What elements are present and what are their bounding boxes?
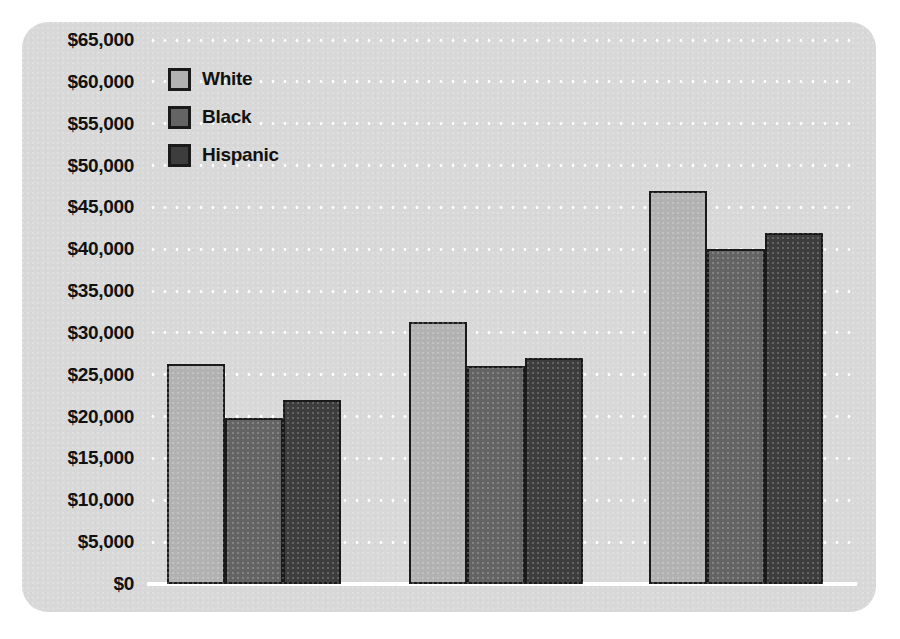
y-axis-tick-label: $0	[113, 573, 134, 595]
bar	[707, 249, 765, 584]
legend-swatch-icon	[168, 68, 191, 91]
bar	[225, 418, 283, 584]
legend-item: White	[168, 60, 279, 98]
bar	[467, 366, 525, 584]
x-axis-category-label: Less than High School	[167, 610, 341, 612]
bar	[167, 364, 225, 584]
legend-label: Hispanic	[202, 144, 279, 166]
chart-panel: $65,000$60,000$55,000$50,000$45,000$40,0…	[22, 22, 876, 612]
legend-item: Black	[168, 98, 279, 136]
y-axis-tick-label: $65,000	[67, 29, 134, 51]
y-axis-tick-label: $35,000	[67, 280, 134, 302]
y-axis-tick-label: $60,000	[67, 71, 134, 93]
legend-item: Hispanic	[168, 136, 279, 174]
bar	[649, 191, 707, 584]
bar	[765, 233, 823, 585]
y-axis-tick-label: $15,000	[67, 447, 134, 469]
y-axis-tick-label: $20,000	[67, 406, 134, 428]
legend-swatch-icon	[168, 106, 191, 129]
legend-swatch-icon	[168, 144, 191, 167]
x-axis-category-label: Bachelor's Degree	[649, 610, 823, 612]
legend-label: White	[202, 68, 252, 90]
y-axis-tick-label: $5,000	[78, 531, 134, 553]
y-axis-tick-label: $25,000	[67, 364, 134, 386]
chart-legend: WhiteBlackHispanic	[168, 60, 279, 174]
bar	[409, 322, 467, 584]
bar	[283, 400, 341, 584]
y-axis: $65,000$60,000$55,000$50,000$45,000$40,0…	[22, 40, 142, 584]
gridline	[147, 39, 857, 42]
bar	[525, 358, 583, 584]
y-axis-tick-label: $45,000	[67, 196, 134, 218]
x-axis-category-label: High School Graduate	[409, 610, 583, 612]
y-axis-tick-label: $55,000	[67, 113, 134, 135]
gridline	[147, 206, 857, 209]
y-axis-tick-label: $40,000	[67, 238, 134, 260]
y-axis-tick-label: $30,000	[67, 322, 134, 344]
y-axis-tick-label: $50,000	[67, 155, 134, 177]
y-axis-tick-label: $10,000	[67, 489, 134, 511]
legend-label: Black	[202, 106, 251, 128]
